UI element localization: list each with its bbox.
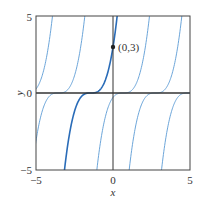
x-tick-zero: 0 [110, 174, 116, 186]
y-tick-zero: 0 [27, 87, 33, 99]
x-tick-max: 5 [187, 174, 193, 186]
point-marker [111, 45, 115, 49]
slope-field-chart: (0,3) 5 0 −5 y −5 0 5 x [0, 0, 204, 204]
point-label: (0,3) [118, 41, 139, 54]
x-tick-min: −5 [30, 174, 42, 186]
y-tick-max: 5 [27, 11, 33, 23]
x-axis-label: x [110, 186, 116, 198]
y-axis-label: y [13, 90, 25, 96]
